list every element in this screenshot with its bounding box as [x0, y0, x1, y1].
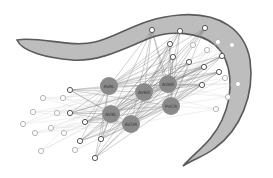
hub-label: AVBL	[105, 112, 117, 117]
neuron-node	[201, 64, 206, 69]
hub-label: AVAL	[103, 84, 115, 89]
neuron-node	[72, 147, 77, 152]
neuron-node	[92, 155, 97, 160]
hub-label: PVCR	[165, 104, 177, 109]
neuron-node	[38, 148, 43, 153]
connection-edge	[171, 56, 222, 106]
neuron-node	[48, 125, 53, 130]
worm-body	[17, 15, 251, 166]
connection-edge	[171, 78, 225, 106]
neuron-node	[67, 110, 72, 115]
neuron-node	[77, 138, 82, 143]
neuron-node	[213, 106, 218, 111]
neuron-node	[98, 136, 103, 141]
neuron-node	[204, 47, 209, 52]
neuron-node	[61, 130, 66, 135]
hub-neuron-pvcr: PVCR	[162, 97, 180, 115]
connection-edge	[168, 84, 228, 97]
hub-neuron-avbl: AVBL	[102, 105, 120, 123]
neuron-node	[177, 28, 182, 33]
hub-label: AVDR	[125, 122, 137, 127]
connection-edge	[171, 50, 207, 106]
hub-neuron-avbr: AVBR	[135, 83, 153, 101]
diagram-canvas: AVALAVBRAVARPVCRAVBLAVDR	[0, 0, 273, 178]
neuron-node	[149, 27, 154, 32]
neuron-node	[199, 82, 204, 87]
neuron-node	[67, 87, 72, 92]
neuron-node	[82, 119, 87, 124]
neuron-node	[32, 130, 37, 135]
neuron-node	[235, 81, 240, 86]
neuron-node	[215, 39, 220, 44]
neuron-node	[170, 54, 175, 59]
hub-neuron-aval: AVAL	[100, 77, 118, 95]
neuron-node	[219, 53, 224, 58]
neuron-node	[40, 95, 45, 100]
hub-neuron-avdr: AVDR	[122, 115, 140, 133]
neuron-node	[216, 69, 221, 74]
neuron-node	[20, 121, 25, 126]
neuron-node	[222, 75, 227, 80]
neuron-node	[225, 94, 230, 99]
connectome-diagram: AVALAVBRAVARPVCRAVBLAVDR	[0, 0, 273, 178]
neuron-node	[54, 110, 59, 115]
connection-edge	[41, 114, 111, 151]
connection-edge	[41, 86, 109, 151]
hub-neuron-avar: AVAR	[159, 75, 177, 93]
hub-label: AVBR	[138, 90, 150, 95]
neuron-node	[30, 109, 35, 114]
hub-label: AVAR	[162, 82, 174, 87]
neuron-node	[167, 41, 172, 46]
neuron-node	[202, 25, 207, 30]
neuron-node	[190, 42, 195, 47]
neuron-node	[60, 95, 65, 100]
neuron-node	[186, 59, 191, 64]
neuron-node	[229, 42, 234, 47]
